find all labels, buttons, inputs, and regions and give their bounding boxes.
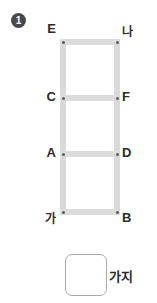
vertex-label-ga: 가 bbox=[28, 209, 56, 226]
ladder-rung-top bbox=[60, 39, 120, 45]
answer-row: 가지 bbox=[65, 254, 133, 296]
vertex-node-ga bbox=[62, 211, 65, 214]
vertex-label-na: 나 bbox=[122, 22, 150, 39]
vertex-label-a: A bbox=[32, 145, 56, 160]
vertex-label-f: F bbox=[122, 89, 150, 104]
vertex-label-e: E bbox=[32, 21, 56, 36]
ladder-rung-ad bbox=[60, 151, 120, 157]
vertex-node-b bbox=[116, 211, 119, 214]
ladder-rail-left bbox=[60, 39, 66, 215]
answer-unit-label: 가지 bbox=[109, 266, 133, 285]
vertex-node-e bbox=[62, 41, 65, 44]
vertex-node-f bbox=[116, 97, 119, 100]
vertex-label-b: B bbox=[122, 210, 150, 225]
vertex-label-d: D bbox=[122, 145, 150, 160]
ladder-diagram: E 나 C F A D 가 B bbox=[0, 0, 157, 240]
ladder-rail-right bbox=[114, 39, 120, 215]
vertex-label-c: C bbox=[32, 89, 56, 104]
vertex-node-c bbox=[62, 97, 65, 100]
ladder-rung-cf bbox=[60, 95, 120, 101]
ladder-rung-bottom bbox=[60, 209, 120, 215]
vertex-node-na bbox=[116, 41, 119, 44]
vertex-node-a bbox=[62, 153, 65, 156]
answer-input-box[interactable] bbox=[65, 254, 107, 296]
vertex-node-d bbox=[116, 153, 119, 156]
